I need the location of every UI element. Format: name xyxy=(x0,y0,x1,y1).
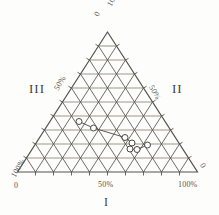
data-point-marker xyxy=(91,125,97,131)
region-label-three: III xyxy=(29,82,45,95)
data-point-marker xyxy=(145,142,151,148)
ternary-diagram-figure: 0 100% 50% 50% 100% 0 50% 100% 0 III II … xyxy=(0,0,219,215)
tick-label-bottom-left-zero: 0 xyxy=(14,182,18,190)
tick-label-bottom-right-hundred: 100% xyxy=(178,181,197,189)
data-point-marker xyxy=(129,140,135,146)
region-label-two: II xyxy=(172,82,183,95)
grid-lines-horizontal xyxy=(27,46,189,158)
data-point-marker xyxy=(122,135,128,141)
tick-label-bottom-mid: 50% xyxy=(98,181,113,189)
data-point-marker xyxy=(76,119,82,125)
data-point-marker xyxy=(134,147,140,153)
data-point-marker xyxy=(127,146,133,152)
axis-tick-marks xyxy=(24,44,192,175)
axis-label-one: I xyxy=(104,196,108,208)
